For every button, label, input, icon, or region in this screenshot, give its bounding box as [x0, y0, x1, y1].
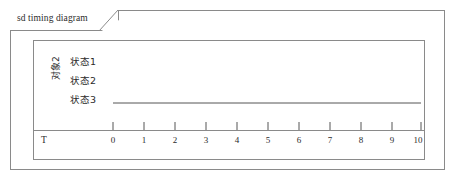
axis-tick-labels: 0 1 2 3 4 5 6 7 8 9 10: [34, 132, 426, 150]
axis-tick-label: 4: [227, 132, 247, 148]
axis-tick-label: 6: [289, 132, 309, 148]
axis-separator-line: [34, 130, 424, 131]
axis-tick-label: 7: [320, 132, 340, 148]
timing-lifeline-box: 对象2 状态1 状态2 状态3 T: [33, 40, 425, 160]
frame-tab-label: sd timing diagram: [17, 12, 88, 25]
axis-tick-label: 1: [134, 132, 154, 148]
axis-tick-label: 9: [382, 132, 402, 148]
axis-tick-label: 3: [196, 132, 216, 148]
state-label-1: 状态1: [70, 55, 154, 74]
axis-tick-label: 10: [408, 132, 428, 148]
state-label-2: 状态2: [70, 74, 154, 93]
state-label-3: 状态3: [70, 93, 154, 112]
lifeline-object-label: 对象2: [49, 40, 63, 96]
axis-tick-label: 0: [103, 132, 123, 148]
state-label-list: 状态1 状态2 状态3: [70, 55, 154, 112]
axis-tick-label: 8: [351, 132, 371, 148]
timing-diagram-root: sd timing diagram 对象2 状态1 状态2 状态3: [0, 0, 458, 180]
axis-tick-label: 2: [165, 132, 185, 148]
axis-tick-label: 5: [258, 132, 278, 148]
